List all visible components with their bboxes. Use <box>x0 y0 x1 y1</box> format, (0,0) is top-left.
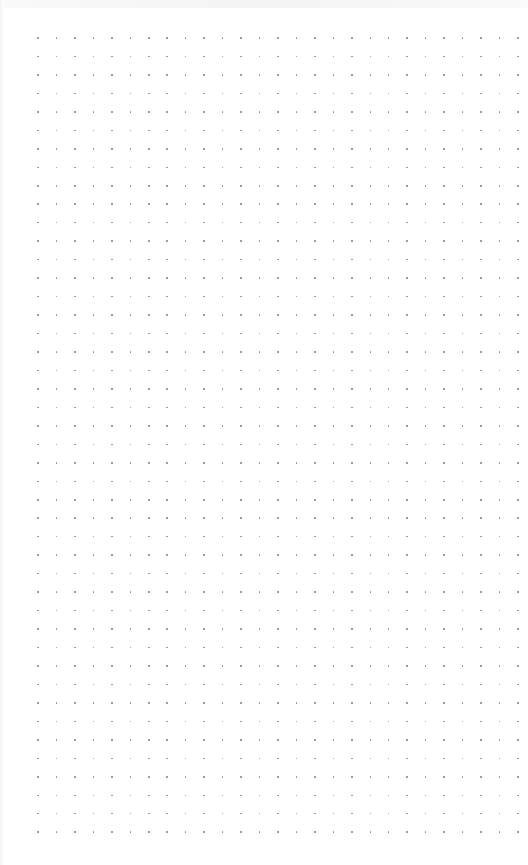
grid-dot <box>480 481 482 483</box>
grid-dot <box>388 277 390 279</box>
grid-dot <box>462 444 464 446</box>
grid-dot <box>351 333 353 335</box>
grid-dot <box>203 333 205 335</box>
grid-dot <box>148 240 150 242</box>
grid-dot <box>351 739 353 741</box>
grid-dot <box>388 425 390 427</box>
grid-dot <box>37 222 39 224</box>
grid-dot <box>222 813 224 815</box>
grid-dot <box>277 314 279 316</box>
grid-dot <box>517 758 519 760</box>
grid-dot <box>388 665 390 667</box>
grid-dot <box>499 185 501 187</box>
grid-dot <box>314 407 316 409</box>
grid-dot <box>351 167 353 169</box>
grid-dot <box>37 610 39 612</box>
grid-dot <box>351 240 353 242</box>
grid-dot <box>370 702 372 704</box>
grid-dot <box>333 259 335 261</box>
grid-dot <box>56 111 58 113</box>
grid-dot <box>443 499 445 501</box>
grid-dot <box>111 684 113 686</box>
grid-dot <box>370 628 372 630</box>
grid-dot <box>185 185 187 187</box>
grid-dot <box>56 813 58 815</box>
grid-dot <box>370 684 372 686</box>
grid-dot <box>203 203 205 205</box>
grid-dot <box>166 74 168 76</box>
grid-dot <box>277 462 279 464</box>
grid-dot <box>111 407 113 409</box>
grid-dot <box>93 481 95 483</box>
grid-dot <box>499 758 501 760</box>
grid-dot <box>111 56 113 58</box>
grid-dot <box>259 795 261 797</box>
grid-dot <box>185 388 187 390</box>
grid-dot <box>462 351 464 353</box>
grid-dot <box>499 776 501 778</box>
grid-dot <box>462 591 464 593</box>
grid-dot <box>259 481 261 483</box>
grid-dot <box>185 56 187 58</box>
grid-dot <box>130 517 132 519</box>
grid-dot <box>480 333 482 335</box>
grid-dot <box>443 647 445 649</box>
grid-dot <box>37 37 39 39</box>
grid-dot <box>314 591 316 593</box>
grid-dot <box>130 776 132 778</box>
grid-dot <box>185 831 187 833</box>
grid-dot <box>148 647 150 649</box>
grid-dot <box>480 573 482 575</box>
grid-dot <box>185 721 187 723</box>
grid-dot <box>517 739 519 741</box>
grid-dot <box>37 684 39 686</box>
grid-dot <box>388 185 390 187</box>
grid-dot <box>443 222 445 224</box>
grid-dot <box>222 831 224 833</box>
grid-dot <box>56 647 58 649</box>
grid-dot <box>74 591 76 593</box>
grid-dot <box>259 74 261 76</box>
grid-dot <box>130 462 132 464</box>
grid-dot <box>148 56 150 58</box>
grid-dot <box>499 702 501 704</box>
grid-dot <box>517 240 519 242</box>
grid-dot <box>111 351 113 353</box>
grid-dot <box>93 813 95 815</box>
grid-dot <box>277 444 279 446</box>
grid-dot <box>351 684 353 686</box>
grid-dot <box>130 499 132 501</box>
grid-dot <box>406 536 408 538</box>
grid-dot <box>203 222 205 224</box>
grid-dot <box>462 721 464 723</box>
grid-dot <box>388 407 390 409</box>
grid-dot <box>480 813 482 815</box>
grid-dot <box>314 610 316 612</box>
grid-dot <box>406 74 408 76</box>
grid-dot <box>517 203 519 205</box>
grid-dot <box>240 388 242 390</box>
grid-dot <box>370 111 372 113</box>
grid-dot <box>480 499 482 501</box>
grid-dot <box>388 684 390 686</box>
grid-dot <box>443 573 445 575</box>
dot-grid-canvas[interactable] <box>0 0 528 865</box>
grid-dot <box>388 314 390 316</box>
grid-dot <box>462 314 464 316</box>
grid-dot <box>388 758 390 760</box>
grid-dot <box>203 74 205 76</box>
grid-dot <box>185 499 187 501</box>
grid-dot <box>406 444 408 446</box>
grid-dot <box>480 351 482 353</box>
grid-dot <box>222 37 224 39</box>
grid-dot <box>166 203 168 205</box>
grid-dot <box>388 628 390 630</box>
grid-dot <box>130 536 132 538</box>
grid-dot <box>314 684 316 686</box>
grid-dot <box>443 425 445 427</box>
grid-dot <box>314 425 316 427</box>
grid-dot <box>240 37 242 39</box>
grid-dot <box>259 499 261 501</box>
grid-dot <box>314 185 316 187</box>
grid-dot <box>93 74 95 76</box>
